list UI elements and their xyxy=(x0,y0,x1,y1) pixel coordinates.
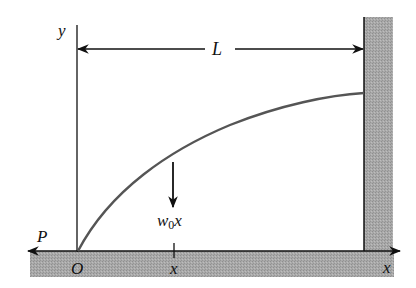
x-axis-label: x xyxy=(382,258,391,277)
ground-support xyxy=(30,251,394,277)
fixed-wall xyxy=(364,17,393,251)
deflection-curve xyxy=(78,93,364,251)
y-axis-label: y xyxy=(56,21,66,40)
force-p-label: P xyxy=(36,227,47,246)
load-label: w0x xyxy=(157,211,182,232)
load-label-var: x xyxy=(173,211,182,230)
beam-diagram: y L P O x x w0x xyxy=(0,0,416,288)
position-x-label: x xyxy=(169,259,178,278)
length-label: L xyxy=(211,39,222,59)
origin-label: O xyxy=(71,259,83,278)
load-label-base: w xyxy=(157,211,169,230)
